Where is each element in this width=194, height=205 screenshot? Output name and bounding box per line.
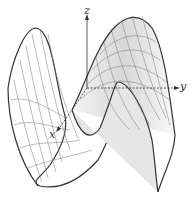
surface-plot bbox=[0, 0, 194, 205]
y-axis-label: y bbox=[180, 80, 186, 93]
x-axis-label: x bbox=[49, 128, 55, 141]
z-axis-label: z bbox=[84, 4, 90, 17]
surface bbox=[8, 16, 175, 192]
